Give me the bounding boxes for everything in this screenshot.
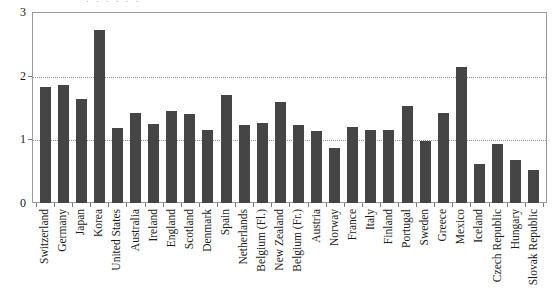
bar [402, 106, 413, 203]
y-axis-tick-label: 3 [20, 6, 26, 18]
bar [492, 144, 503, 203]
bar [148, 124, 159, 203]
bar-series [32, 12, 547, 203]
bar [528, 170, 539, 203]
x-axis-label: France [347, 207, 358, 291]
x-axis-label-text: Slovak Republic [528, 209, 540, 285]
bar [510, 160, 521, 203]
x-axis-label: Japan [76, 207, 87, 291]
x-axis-label: Belgium (Fl.) [257, 207, 268, 291]
y-axis-tick-label: 1 [20, 133, 26, 145]
x-axis-label: Iceland [474, 207, 485, 291]
caption-remnant: . . . . . . [0, 0, 552, 5]
x-axis-label-text: Belgium (Fr.) [293, 209, 305, 272]
x-axis-label-text: Italy [365, 209, 377, 230]
x-axis-label: Greece [438, 207, 449, 291]
bar [58, 85, 69, 203]
bar [383, 130, 394, 203]
x-axis-label-text: Netherlands [238, 209, 250, 265]
x-axis-label-text: Australia [130, 209, 142, 251]
x-axis-label-text: Hungary [510, 209, 522, 249]
x-axis-label-text: Austria [311, 209, 323, 243]
caption-remnant-text: . . . . . . [86, 0, 140, 4]
x-axis-label: Mexico [456, 207, 467, 291]
bar [347, 127, 358, 203]
bar [329, 148, 340, 203]
x-axis-label: Germany [58, 207, 69, 291]
x-axis-label-text: France [347, 209, 359, 240]
bar [311, 131, 322, 203]
x-axis-label: Italy [365, 207, 376, 291]
bar [239, 125, 250, 203]
x-axis-label-text: Japan [75, 209, 87, 235]
bar [202, 130, 213, 203]
y-axis-tick-label: 2 [20, 70, 26, 82]
bar [40, 87, 51, 203]
x-axis-label-text: New Zealand [275, 209, 287, 271]
x-axis-labels: SwitzerlandGermanyJapanKoreaUnited State… [32, 207, 547, 292]
x-axis-label-text: Scotland [184, 209, 196, 249]
x-axis-label: Norway [329, 207, 340, 291]
bar [456, 67, 467, 203]
x-axis-label: Netherlands [239, 207, 250, 291]
bar [130, 113, 141, 203]
x-axis-label-text: Finland [383, 209, 395, 244]
x-axis-label: Australia [130, 207, 141, 291]
x-axis-label-text: Norway [329, 209, 341, 246]
x-axis-label-text: England [166, 209, 178, 247]
bar [293, 125, 304, 203]
x-axis-label: Czech Republic [492, 207, 503, 291]
x-axis-label-text: Korea [94, 209, 106, 237]
x-axis-label-text: United States [112, 209, 124, 271]
x-axis-label-text: Iceland [474, 209, 486, 243]
bar [420, 141, 431, 203]
bar [257, 123, 268, 203]
y-axis: 0123 [0, 0, 32, 292]
x-axis-label-text: Mexico [456, 209, 468, 244]
x-axis-label: Ireland [148, 207, 159, 291]
bar [166, 111, 177, 203]
x-axis-label: Austria [311, 207, 322, 291]
bar [112, 128, 123, 203]
x-axis-label-text: Denmark [202, 209, 214, 252]
x-axis-label: Denmark [202, 207, 213, 291]
bar [221, 95, 232, 203]
bar [438, 113, 449, 203]
x-axis-label: Finland [383, 207, 394, 291]
y-axis-tick-label: 0 [20, 197, 26, 209]
x-axis-label: Portugal [402, 207, 413, 291]
x-axis-label: Belgium (Fr.) [293, 207, 304, 291]
x-axis-label-text: Spain [220, 209, 232, 235]
x-axis-label: Scotland [184, 207, 195, 291]
x-axis-label-text: Belgium (Fl.) [257, 209, 269, 272]
bar [94, 30, 105, 203]
x-axis-label-text: Portugal [401, 209, 413, 248]
x-axis-label: England [166, 207, 177, 291]
x-axis-label-text: Ireland [148, 209, 160, 242]
x-axis-label-text: Switzerland [39, 209, 51, 264]
x-axis-label: United States [112, 207, 123, 291]
x-axis-label-text: Sweden [419, 209, 431, 245]
x-axis-label: Sweden [420, 207, 431, 291]
x-axis-label: Hungary [510, 207, 521, 291]
x-axis-label: Spain [221, 207, 232, 291]
x-axis-label: New Zealand [275, 207, 286, 291]
bar-chart-figure: . . . . . . 0123 SwitzerlandGermanyJapan… [0, 0, 552, 292]
x-axis-label: Slovak Republic [528, 207, 539, 291]
bar [275, 102, 286, 203]
bar [184, 114, 195, 203]
x-axis-label: Switzerland [40, 207, 51, 291]
x-axis-label-text: Czech Republic [492, 209, 504, 282]
x-axis-label-text: Greece [438, 209, 450, 242]
x-axis-label: Korea [94, 207, 105, 291]
bar [76, 99, 87, 203]
bar [474, 164, 485, 203]
bar [365, 130, 376, 203]
x-axis-label-text: Germany [57, 209, 69, 252]
